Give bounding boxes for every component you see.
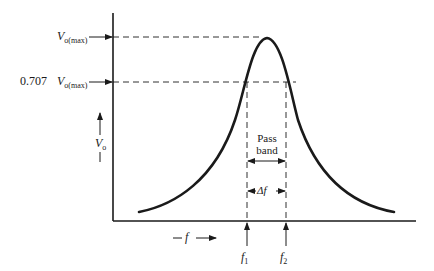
pass-band-line1: Pass	[249, 132, 285, 144]
f2-label: f2	[280, 250, 287, 266]
half-power-subscript: o(max)	[64, 81, 87, 90]
f2-subscript: 2	[283, 257, 287, 266]
f1-label: f1	[241, 250, 248, 266]
y-axis-label: Vo	[95, 136, 106, 152]
pass-band-line2: band	[249, 144, 285, 156]
half-power-label: Vo(max)	[57, 74, 87, 90]
x-axis-label: f	[185, 230, 188, 245]
vmax-label: Vo(max)	[57, 29, 87, 45]
vmax-subscript: o(max)	[64, 36, 87, 45]
delta-f-symbol: Δf	[257, 184, 267, 196]
y-axis-subscript: o	[102, 143, 106, 152]
pass-band-label: Pass band	[249, 132, 285, 156]
delta-f-label: Δf	[257, 184, 267, 196]
half-power-value: 0.707	[20, 74, 47, 89]
f1-subscript: 1	[244, 257, 248, 266]
